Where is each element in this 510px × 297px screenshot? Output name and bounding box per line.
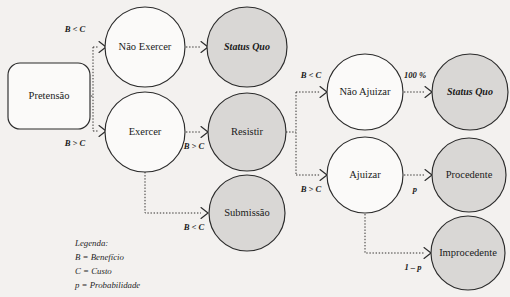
node-resistir[interactable]: Resistir [208,93,286,171]
legend: Legenda: B = Benefício C = Custo p = Pro… [74,238,140,290]
node-submissao-label: Submissão [224,207,270,218]
edge-exercer-resistir [186,127,208,138]
edge-label-ajuizar-improcedente: 1 – p [404,262,422,272]
edge-ajuizar-procedente [404,170,432,181]
legend-title: Legenda: [74,238,108,248]
edge-nao-ajuizar-status-quo [404,87,432,98]
edge-label-pretensao-exercer: B > C [64,138,86,148]
node-nao-exercer[interactable]: Não Exercer [105,7,185,87]
edge-exercer-submissao [145,172,208,219]
node-improcedente[interactable]: Improcedente [431,216,505,290]
arrowhead-icon [201,208,208,219]
node-pretensao-label: Pretensão [29,90,70,101]
edge-resistir-branch [286,87,327,181]
legend-item-p: p = Probabilidade [74,280,140,290]
node-status-quo-2[interactable]: Status Quo [432,54,508,130]
edge-label-ajuizar-procedente: p [412,184,418,194]
arrowhead-icon [425,170,432,181]
arrowhead-icon [424,248,431,259]
node-nao-ajuizar-label: Não Ajuizar [339,86,391,97]
edge-label-pretensao-nao-exercer: B < C [64,24,86,34]
edge-pretensao-branch [91,42,106,137]
node-procedente-label: Procedente [446,169,493,180]
node-procedente[interactable]: Procedente [432,138,506,212]
node-resistir-label: Resistir [231,126,264,137]
arrowhead-icon [320,87,327,98]
edge-label-nao-ajuizar-status-quo: 100 % [404,70,426,80]
edge-nao-exercer-status-quo [186,42,208,53]
node-nao-ajuizar[interactable]: Não Ajuizar [327,54,403,130]
edge-label-exercer-submissao: B < C [183,222,205,232]
node-pretensao[interactable]: Pretensão [8,63,90,129]
node-submissao[interactable]: Submissão [209,175,285,251]
node-status-quo-1-label: Status Quo [224,41,270,52]
edge-label-resistir-ajuizar: B > C [300,184,322,194]
arrowhead-icon [320,170,327,181]
node-ajuizar[interactable]: Ajuizar [327,137,403,213]
node-nao-exercer-label: Não Exercer [119,41,172,52]
node-exercer[interactable]: Exercer [105,92,185,172]
node-status-quo-2-label: Status Quo [447,86,493,97]
node-status-quo-1[interactable]: Status Quo [207,7,287,87]
node-exercer-label: Exercer [129,126,162,137]
node-improcedente-label: Improcedente [439,247,497,258]
node-ajuizar-label: Ajuizar [349,169,381,180]
legend-item-c: C = Custo [75,266,112,276]
edge-ajuizar-improcedente [365,214,431,259]
arrowhead-icon [425,87,432,98]
edge-label-resistir-nao-ajuizar: B < C [300,70,322,80]
edge-label-exercer-resistir: B > C [183,141,205,151]
arrowhead-icon [201,127,208,138]
legend-item-b: B = Benefício [75,252,125,262]
decision-tree-diagram: Pretensão Não Exercer Status Quo Exercer… [0,0,510,297]
